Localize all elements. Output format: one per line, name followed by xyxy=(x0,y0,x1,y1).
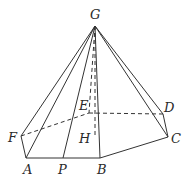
pyramid-diagram: G E D F H C A P B xyxy=(0,0,190,185)
label-P: P xyxy=(57,162,67,177)
edge-GF xyxy=(21,26,95,136)
label-F: F xyxy=(7,130,18,145)
label-C: C xyxy=(171,131,181,146)
edge-GC xyxy=(95,26,168,137)
label-H: H xyxy=(78,131,91,146)
label-D: D xyxy=(163,100,175,115)
label-A: A xyxy=(22,162,32,177)
label-B: B xyxy=(96,162,107,177)
edge-GD xyxy=(95,26,163,114)
label-E: E xyxy=(78,98,89,113)
edge-FA xyxy=(21,136,26,158)
edge-BC xyxy=(100,137,168,158)
label-G: G xyxy=(90,7,100,22)
edge-GB xyxy=(95,26,100,158)
